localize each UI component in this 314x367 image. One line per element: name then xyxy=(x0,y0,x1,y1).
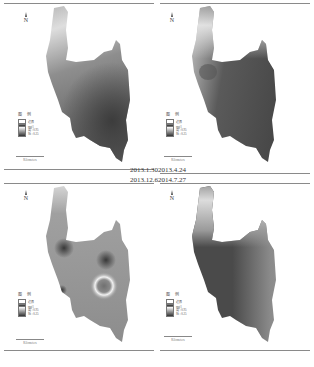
scale-bar: Kilometers xyxy=(16,338,44,344)
interpolation-map xyxy=(150,0,300,168)
map-panel-2013-12-6: N 图 例 边界 mg/l 高 : 0.95低 : 0.25 Kilometer… xyxy=(4,180,154,348)
map-panel-2013-1-30: N 图 例 边界 mg/l 高 : 0.95低 : 0.25 Kilometer… xyxy=(4,0,154,168)
scale-bar: Kilometers xyxy=(164,335,192,341)
interpolation-map xyxy=(4,0,154,168)
map-legend: 图 例 边界 mg/l 高 : 0.95低 : 0.25 xyxy=(18,293,39,314)
map-panel-2014-7-27: N 图 例 边界 mg/l 高 : 0.95低 : 0.25 Kilometer… xyxy=(160,180,310,348)
map-legend: 图 例 边界 mg/l 高 : 0.95低 : 0.25 xyxy=(166,113,187,134)
scale-bar: Kilometers xyxy=(164,155,192,161)
interpolation-map xyxy=(150,180,300,348)
map-panel-2013-4-24: N 图 例 边界 mg/l 高 : 0.95低 : 0.25 Kilometer… xyxy=(160,0,310,168)
panel-bottom-border xyxy=(4,350,154,351)
panel-bottom-border xyxy=(160,350,310,351)
map-legend: 图 例 边界 mg/l 高 : 0.95低 : 0.25 xyxy=(18,113,39,134)
date-label-p2: 2013.4.24 xyxy=(158,166,186,174)
interpolation-map xyxy=(4,180,154,348)
map-legend: 图 例 边界 mg/l 高 : 0.95低 : 0.25 xyxy=(166,293,187,314)
scale-bar: Kilometers xyxy=(16,155,44,161)
